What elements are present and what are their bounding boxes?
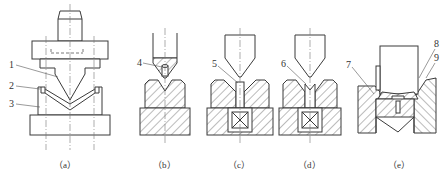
panel-c: 5 （c） <box>207 28 273 170</box>
callout-5: 5 <box>212 58 217 69</box>
caption-c: （c） <box>228 160 250 170</box>
caption-d: （d） <box>298 160 321 170</box>
bending-die-figure: 1 2 3 （a） 4 （b） <box>0 0 443 179</box>
callout-9: 9 <box>434 52 439 63</box>
callout-1: 1 <box>9 59 14 70</box>
panel-a: 1 2 3 （a） <box>9 4 110 170</box>
panel-e: 7 8 9 （e） <box>346 38 439 170</box>
panel-b: 4 （b） <box>137 28 190 170</box>
callout-3: 3 <box>9 98 14 109</box>
callout-2: 2 <box>9 80 14 91</box>
caption-a: （a） <box>54 160 76 170</box>
callout-7: 7 <box>346 59 351 70</box>
callout-6: 6 <box>281 58 286 69</box>
caption-e: （e） <box>388 160 410 170</box>
caption-b: （b） <box>153 160 176 170</box>
callout-4: 4 <box>137 57 142 68</box>
callout-8: 8 <box>434 38 439 49</box>
panel-d: 6 （d） <box>279 28 341 170</box>
